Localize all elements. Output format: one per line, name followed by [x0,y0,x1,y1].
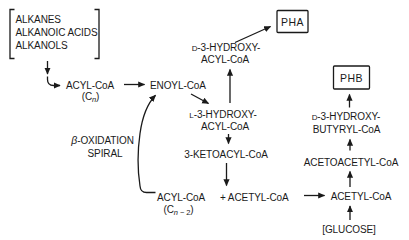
substrate-alkanols-label: ALKANOLS [16,40,68,51]
cn2-close: ) [190,204,193,215]
d3-hydroxy-butyryl-text: -3-HYDROXY- [317,111,380,122]
d3-hydroxy-acyl-line1: D-3-HYDROXY- [192,42,261,53]
acyl-coa-cn-label: ACYL-CoA [66,80,115,91]
glucose-label: [GLUCOSE] [322,224,376,235]
beta-oxidation-label: β-OXIDATION [70,134,134,146]
d3-hydroxy-acyl-text: -3-HYDROXY- [197,42,260,53]
arrow-enoyl-to-l3-hydroxy [191,94,209,104]
metabolic-pathway-diagram: ALKANES ALKANOIC ACIDS ALKANOLS ACYL-CoA… [0,0,409,240]
phb-label: PHB [340,72,363,84]
bracket-left [10,10,15,59]
pathway-diagram-stage: ALKANES ALKANOIC ACIDS ALKANOLS ACYL-CoA… [0,0,409,240]
cn-close: ) [96,91,99,102]
l3-hydroxy-acyl-line1: L-3-HYDROXY- [189,109,256,120]
cn2-minus-two: − 2 [178,208,190,217]
plus-acetyl-coa-label: + ACETYL-CoA [220,192,289,203]
acetoacetyl-coa-label: ACETOACETYL-CoA [304,157,399,168]
acetyl-coa-label: ACETYL-CoA [331,191,392,202]
enoyl-coa-label: ENOYL-CoA [150,80,206,91]
acyl-coa-cn-subscript: (Cn) [82,91,100,104]
arrow-substrates-to-acyl-coa [48,77,61,86]
d3-hydroxy-butyryl-line1: D-3-HYDROXY- [312,111,381,122]
arrow-d3-hydroxy-to-pha [235,27,271,43]
l3-hydroxy-acyl-line2: ACYL-CoA [201,121,250,132]
ketoacyl-coa-label: 3-KETOACYL-CoA [184,149,268,160]
pha-label: PHA [281,16,304,28]
beta-oxidation-text: -OXIDATION [77,135,134,146]
arrow-beta-oxidation-spiral [138,95,155,192]
d3-hydroxy-butyryl-line2: BUTYRYL-CoA [313,124,381,135]
cn-open: (C [82,91,92,102]
d3-hydroxy-acyl-line2: ACYL-CoA [201,54,250,65]
spiral-label: SPIRAL [88,148,124,159]
acyl-coa-cn2-label: ACYL-CoA [157,192,206,203]
l3-hydroxy-text: -3-HYDROXY- [194,109,257,120]
cn2-open: (C [164,204,174,215]
substrate-alkanoic-acids-label: ALKANOIC ACIDS [16,27,98,38]
substrate-alkanes-label: ALKANES [16,14,62,25]
acyl-coa-cn2-subscript: (Cn − 2) [164,204,194,217]
